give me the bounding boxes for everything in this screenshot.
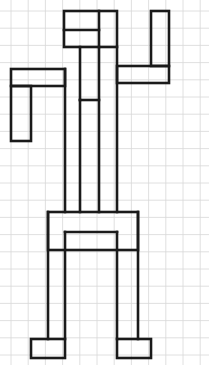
left-foot [31, 339, 65, 358]
left-arm-forearm [11, 86, 31, 141]
right-foot [117, 339, 151, 358]
human-figure-outline [0, 0, 209, 365]
figure-shapes [11, 11, 169, 358]
left-arm-upper [11, 69, 65, 86]
right-arm-raised [151, 11, 169, 66]
right-arm-shoulder [117, 66, 169, 83]
drawing-canvas [0, 0, 209, 365]
